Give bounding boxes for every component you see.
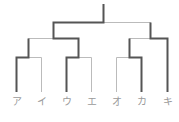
line-u-win: [54, 4, 104, 92]
participant-label-u: ウ: [59, 95, 75, 109]
line-e: [79, 58, 92, 93]
line-final-loser: [104, 23, 151, 39]
participant-label-i: イ: [34, 95, 50, 109]
line-o: [117, 58, 130, 93]
participant-label-ki: キ: [160, 95, 176, 109]
line-i: [29, 58, 42, 93]
participant-label-a: ア: [9, 95, 25, 109]
participant-label-ka: カ: [134, 95, 150, 109]
line-semi-right-loser: [130, 39, 151, 58]
line-semi-left-loser: [29, 39, 54, 58]
line-ki-win: [151, 23, 168, 93]
participant-label-o: オ: [109, 95, 125, 109]
line-ka-win: [130, 39, 142, 93]
participant-label-e: エ: [84, 95, 100, 109]
line-a-win: [17, 39, 29, 93]
